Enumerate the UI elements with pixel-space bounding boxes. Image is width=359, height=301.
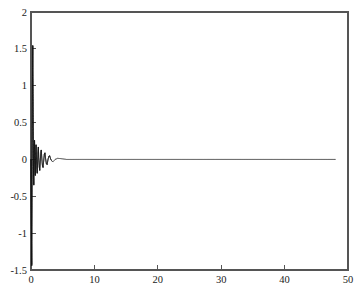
y-tick-label: -0.5 (10, 191, 27, 202)
y-tick-label: -1.5 (10, 265, 27, 276)
x-tick-label: 0 (28, 274, 33, 285)
y-tick-label: 1 (22, 80, 27, 91)
plot-background (31, 12, 348, 270)
x-tick-label: 40 (279, 274, 290, 285)
line-chart: 01020304050 -1.5-1-0.500.511.52 (0, 0, 359, 301)
y-tick-label: 2 (22, 7, 27, 18)
y-tick-label: 0 (22, 154, 27, 165)
y-axis-tick-labels: -1.5-1-0.500.511.52 (10, 7, 27, 276)
x-tick-label: 30 (216, 274, 227, 285)
x-axis-tick-labels: 01020304050 (28, 274, 353, 285)
y-tick-label: 1.5 (14, 43, 27, 54)
x-tick-label: 20 (153, 274, 164, 285)
y-tick-label: -1 (18, 228, 27, 239)
x-tick-label: 50 (343, 274, 354, 285)
chart-figure: 01020304050 -1.5-1-0.500.511.52 (0, 0, 359, 301)
y-tick-label: 0.5 (14, 117, 27, 128)
x-tick-label: 10 (89, 274, 100, 285)
